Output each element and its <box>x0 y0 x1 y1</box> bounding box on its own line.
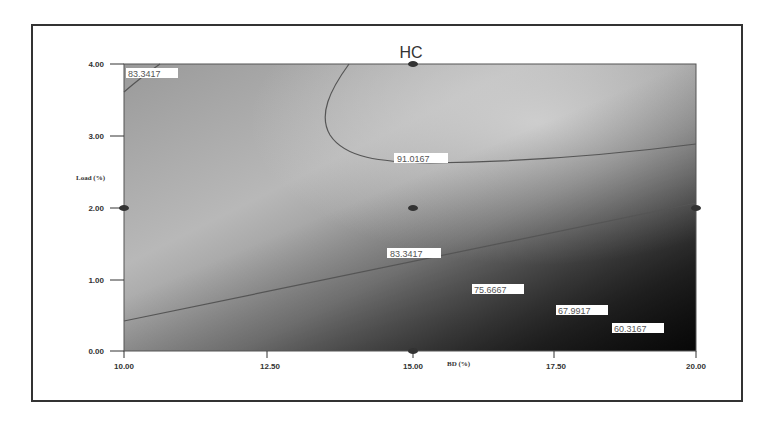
contour-chart: HC 83.3417 91.0167 83.3417 75.6667 67.99… <box>0 0 774 421</box>
chart-title: HC <box>399 44 422 61</box>
contour-label: 75.6667 <box>474 285 507 295</box>
y-axis-label: Load (%) <box>76 174 106 182</box>
y-tick-label: 2.00 <box>88 204 104 213</box>
x-axis-label: BD (%) <box>447 360 471 368</box>
contour-label: 83.3417 <box>128 69 161 79</box>
y-tick-label: 1.00 <box>88 276 104 285</box>
x-tick-label: 15.00 <box>403 362 424 371</box>
contour-label: 91.0167 <box>397 154 430 164</box>
y-tick-label: 3.00 <box>88 132 104 141</box>
contour-label: 60.3167 <box>614 324 647 334</box>
x-tick-label: 20.00 <box>686 362 707 371</box>
x-tick-label: 17.50 <box>546 362 567 371</box>
y-tick-label: 0.00 <box>88 347 104 356</box>
x-tick-label: 12.50 <box>260 362 281 371</box>
contour-label: 83.3417 <box>390 249 423 259</box>
x-tick-label: 10.00 <box>114 362 135 371</box>
contour-label: 67.9917 <box>558 306 591 316</box>
y-tick-label: 4.00 <box>88 60 104 69</box>
y-axis <box>110 64 124 351</box>
